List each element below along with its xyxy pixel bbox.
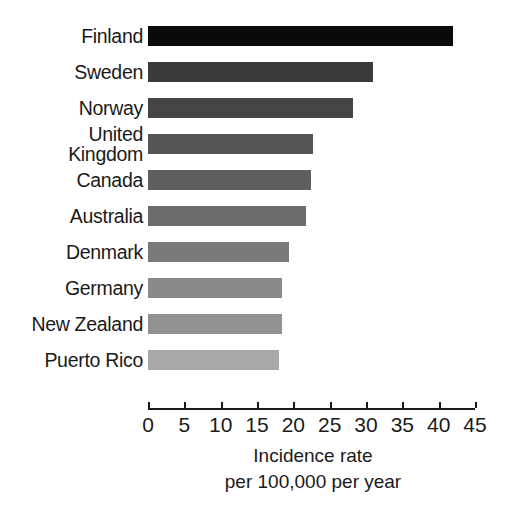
bar (148, 350, 279, 370)
x-axis-tick (330, 402, 332, 408)
bar (148, 242, 289, 262)
bar-track (148, 278, 478, 298)
bar (148, 314, 282, 334)
bar-row: United Kingdom (0, 126, 510, 162)
bar-track (148, 314, 478, 334)
x-axis-tick (475, 402, 477, 408)
bar-track (148, 350, 478, 370)
x-axis-tick (184, 402, 186, 408)
bar-row: Denmark (0, 234, 510, 270)
bar-row: Germany (0, 270, 510, 306)
x-axis-tick (366, 402, 368, 408)
bar-row: Norway (0, 90, 510, 126)
x-axis-tick-labels: 051015202530354045 (0, 412, 510, 438)
bar (148, 278, 282, 298)
x-axis-title-line2: per 100,000 per year (148, 469, 478, 495)
bar-track (148, 98, 478, 118)
bar-category-label: Sweden (8, 54, 143, 90)
x-axis-tick (257, 402, 259, 408)
bar-track (148, 134, 478, 154)
bar-category-label: Canada (8, 162, 143, 198)
bar-category-label: Norway (8, 90, 143, 126)
bar-category-label: Finland (8, 18, 143, 54)
x-axis-tick (148, 402, 150, 408)
bar (148, 26, 453, 46)
bar-chart: FinlandSwedenNorwayUnited KingdomCanadaA… (0, 0, 510, 518)
bar (148, 134, 313, 154)
bar-category-label: Germany (8, 270, 143, 306)
bar-track (148, 242, 478, 262)
bar-row: Sweden (0, 54, 510, 90)
x-axis-tick (221, 402, 223, 408)
bar (148, 98, 353, 118)
x-axis-title-line1: Incidence rate (148, 443, 478, 469)
x-axis-tick (439, 402, 441, 408)
bar-track (148, 62, 478, 82)
bar (148, 62, 373, 82)
x-axis-tick (402, 402, 404, 408)
bar-category-label: Australia (8, 198, 143, 234)
bar-row: New Zealand (0, 306, 510, 342)
bar-category-label: Puerto Rico (8, 342, 143, 378)
bar (148, 206, 306, 226)
bar-row: Australia (0, 198, 510, 234)
bar-category-label: United Kingdom (8, 126, 143, 162)
x-axis-line (148, 408, 475, 410)
bar-category-label: New Zealand (8, 306, 143, 342)
bar (148, 170, 311, 190)
x-axis-tick-label: 45 (450, 412, 500, 438)
x-axis-title: Incidence rate per 100,000 per year (148, 443, 478, 495)
bar-row: Canada (0, 162, 510, 198)
bar-track (148, 26, 478, 46)
bar-category-label: Denmark (8, 234, 143, 270)
bar-row: Puerto Rico (0, 342, 510, 378)
bar-row: Finland (0, 18, 510, 54)
bar-track (148, 206, 478, 226)
bar-rows: FinlandSwedenNorwayUnited KingdomCanadaA… (0, 18, 510, 378)
x-axis-tick (293, 402, 295, 408)
bar-track (148, 170, 478, 190)
